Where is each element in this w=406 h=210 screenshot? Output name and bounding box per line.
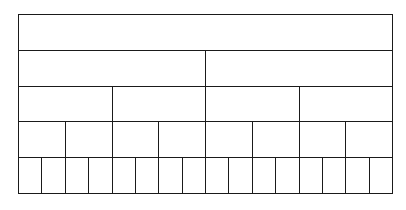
wall-cell: [345, 158, 368, 193]
wall-cell: [345, 122, 392, 157]
wall-cell: [19, 122, 65, 157]
fraction-wall: [18, 14, 393, 194]
wall-cell: [205, 122, 252, 157]
wall-cell: [158, 158, 181, 193]
wall-cell: [322, 158, 345, 193]
wall-row-8: [19, 121, 392, 157]
wall-cell: [88, 158, 111, 193]
wall-cell: [299, 122, 346, 157]
wall-cell: [228, 158, 251, 193]
wall-cell: [112, 158, 135, 193]
wall-cell: [19, 158, 41, 193]
wall-cell: [41, 158, 64, 193]
wall-cell: [19, 15, 392, 50]
wall-cell: [112, 122, 159, 157]
wall-cell: [275, 158, 298, 193]
wall-row-16: [19, 157, 392, 193]
wall-cell: [205, 51, 392, 86]
wall-cell: [182, 158, 205, 193]
wall-row-4: [19, 86, 392, 122]
wall-cell: [19, 51, 205, 86]
wall-cell: [112, 87, 206, 122]
wall-cell: [205, 87, 299, 122]
wall-cell: [205, 158, 228, 193]
wall-cell: [252, 122, 299, 157]
wall-cell: [65, 122, 112, 157]
wall-cell: [19, 87, 112, 122]
wall-row-2: [19, 50, 392, 86]
wall-cell: [252, 158, 275, 193]
wall-cell: [299, 87, 393, 122]
wall-cell: [299, 158, 322, 193]
wall-cell: [369, 158, 392, 193]
wall-cell: [135, 158, 158, 193]
wall-row-1: [19, 15, 392, 50]
wall-cell: [158, 122, 205, 157]
wall-cell: [65, 158, 88, 193]
